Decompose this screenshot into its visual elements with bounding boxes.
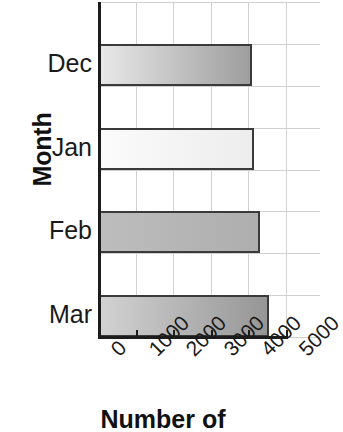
x-tick-label-2000: 2000	[181, 344, 198, 361]
x-axis-title: Number of	[0, 405, 326, 432]
y-axis-spine	[98, 2, 101, 338]
y-gridline	[98, 86, 320, 87]
y-tick-label-feb: Feb	[8, 216, 92, 245]
x-tick-label-group: 010002000300040005000	[0, 340, 326, 410]
x-tick-mark	[211, 330, 213, 339]
y-tick-label-mar: Mar	[8, 300, 92, 329]
x-tick-label-3000: 3000	[219, 344, 236, 361]
x-tick-mark	[248, 330, 250, 339]
x-tick-label-5000: 5000	[294, 344, 311, 361]
x-tick-mark	[173, 330, 175, 339]
bar-feb	[98, 211, 260, 253]
y-tick-label-jan: Jan	[8, 133, 92, 162]
x-tick-label-4000: 4000	[256, 344, 273, 361]
x-tick-label-0: 0	[106, 344, 123, 361]
y-gridline	[98, 170, 320, 171]
y-tick-label-dec: Dec	[8, 49, 92, 78]
y-tick-label-group: DecJanFebMar	[0, 0, 92, 340]
x-tick-mark	[286, 330, 288, 339]
x-tick-mark	[136, 330, 138, 339]
x-tick-label-1000: 1000	[144, 344, 161, 361]
bar-dec	[98, 44, 252, 86]
y-gridline	[98, 253, 320, 254]
y-gridline	[98, 2, 320, 3]
x-tick-mark	[98, 330, 100, 339]
bar-jan	[98, 128, 254, 170]
plot-area	[98, 2, 320, 337]
